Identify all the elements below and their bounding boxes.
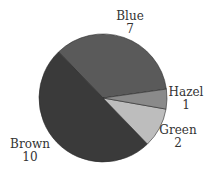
label-blue: Blue7 [116, 9, 144, 36]
label-name: Green [159, 123, 197, 137]
label-value: 10 [22, 150, 37, 164]
label-name: Blue [116, 9, 144, 23]
label-value: 7 [126, 22, 134, 36]
pie-chart: Blue7Hazel1Green2Brown10 [0, 0, 214, 170]
label-brown: Brown10 [10, 137, 50, 164]
pie-slices [39, 34, 167, 162]
label-green: Green2 [159, 123, 197, 150]
label-name: Brown [10, 137, 50, 151]
label-hazel: Hazel1 [169, 85, 204, 112]
label-value: 1 [182, 98, 190, 112]
label-name: Hazel [169, 85, 204, 99]
label-value: 2 [174, 136, 182, 150]
